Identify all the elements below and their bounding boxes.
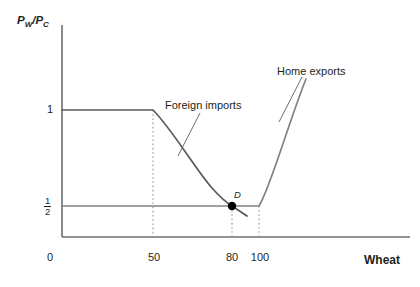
- x-tick-label-80: 80: [225, 252, 239, 263]
- y-axis-title-p1: P: [17, 14, 25, 26]
- x-tick-label-50: 50: [147, 252, 161, 263]
- y-axis-title: PW/PC: [17, 15, 49, 29]
- home-exports-label: Home exports: [277, 66, 345, 77]
- y-axis-title-sub2: C: [43, 20, 49, 29]
- y-tick-label-half: 1 2: [44, 196, 56, 218]
- x-tick-label-100: 100: [250, 252, 270, 263]
- foreign-imports-curve: [62, 110, 247, 216]
- fraction-denominator: 2: [44, 207, 51, 217]
- equilibrium-point-label: D: [234, 190, 241, 200]
- fraction-one-half: 1 2: [44, 196, 51, 217]
- y-axis-title-p2: P: [35, 14, 43, 26]
- chart-canvas: [0, 0, 420, 287]
- foreign-imports-leader-line: [178, 113, 200, 156]
- y-tick-label-1: 1: [44, 104, 56, 115]
- x-axis-title: Wheat: [364, 254, 400, 266]
- y-tick-label-0: 0: [44, 252, 56, 263]
- foreign-imports-label: Foreign imports: [165, 100, 241, 111]
- equilibrium-point-marker: [228, 202, 236, 210]
- chart-figure: PW/PC Wheat 1 1 2 0 50 80 100 Foreign im…: [0, 0, 420, 287]
